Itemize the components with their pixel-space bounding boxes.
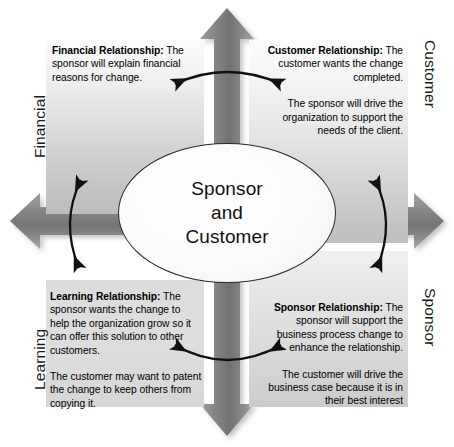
axis-label-financial: Financial xyxy=(32,95,48,158)
customer-paragraph-1: Customer Relationship: The customer want… xyxy=(253,44,403,84)
customer-heading: Customer Relationship: xyxy=(268,45,383,56)
quadrant-text-learning: Learning Relationship: The sponsor wants… xyxy=(50,290,202,410)
sponsor-paragraph-2: The customer will drive the business cas… xyxy=(253,368,403,408)
center-ellipse-label: Sponsor and Customer xyxy=(185,177,268,249)
center-line-3: Customer xyxy=(185,225,268,249)
quadrant-text-financial: Financial Relationship: The sponsor will… xyxy=(52,44,200,84)
financial-heading: Financial Relationship: xyxy=(52,45,164,56)
sponsor-paragraph-1: Sponsor Relationship: The sponsor will s… xyxy=(253,301,403,355)
center-line-1: Sponsor xyxy=(185,177,268,201)
diagram-canvas: Financial Relationship: The sponsor will… xyxy=(0,0,454,447)
quadrant-text-sponsor: Sponsor Relationship: The sponsor will s… xyxy=(253,301,403,408)
axis-label-learning: Learning xyxy=(32,329,48,390)
learning-heading: Learning Relationship: xyxy=(50,291,160,302)
axis-label-customer: Customer xyxy=(423,40,439,108)
axis-label-sponsor: Sponsor xyxy=(423,288,439,346)
financial-paragraph-1: Financial Relationship: The sponsor will… xyxy=(52,44,200,84)
center-line-2: and xyxy=(185,201,268,225)
quadrant-text-customer: Customer Relationship: The customer want… xyxy=(253,44,403,137)
customer-paragraph-2: The sponsor will drive the organization … xyxy=(253,97,403,137)
sponsor-heading: Sponsor Relationship: xyxy=(274,302,383,313)
learning-paragraph-2: The customer may want to patent the chan… xyxy=(50,370,202,410)
center-ellipse: Sponsor and Customer xyxy=(118,143,336,283)
learning-paragraph-1: Learning Relationship: The sponsor wants… xyxy=(50,290,202,357)
